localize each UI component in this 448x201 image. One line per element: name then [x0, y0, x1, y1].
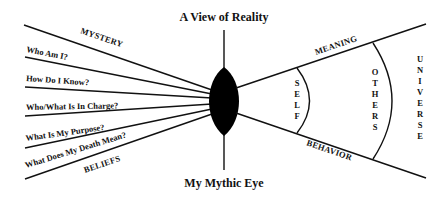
svg-text:S: S: [373, 122, 378, 132]
label-meaning: MEANING: [313, 33, 358, 57]
svg-text:E: E: [372, 100, 378, 110]
svg-text:F: F: [294, 111, 299, 121]
svg-text:V: V: [417, 87, 424, 97]
question-how-do-i-know: How Do I Know?: [26, 73, 90, 87]
ring-label-others: O T H E R S: [372, 67, 379, 132]
svg-text:S: S: [295, 78, 300, 88]
diagram-title: A View of Reality: [180, 10, 269, 24]
label-mystery: MYSTERY: [79, 25, 124, 49]
svg-text:E: E: [417, 98, 423, 108]
question-who-is-in-charge: Who/What Is In Charge?: [26, 100, 119, 112]
svg-text:O: O: [372, 67, 379, 77]
ring-label-self: S E L F: [294, 78, 300, 121]
svg-text:E: E: [294, 89, 300, 99]
ring-label-universe: U N I V E R S E: [417, 54, 424, 141]
question-who-am-i: Who Am I?: [26, 44, 69, 62]
diagram-caption: My Mythic Eye: [184, 176, 264, 190]
svg-text:N: N: [417, 65, 424, 75]
svg-text:H: H: [372, 89, 379, 99]
svg-text:R: R: [417, 109, 424, 119]
svg-text:E: E: [417, 131, 423, 141]
svg-text:R: R: [372, 111, 379, 121]
svg-text:S: S: [418, 120, 423, 130]
eye-icon: [209, 67, 239, 136]
svg-text:U: U: [417, 54, 423, 64]
svg-text:T: T: [372, 78, 378, 88]
svg-text:I: I: [418, 76, 422, 86]
mythic-eye-diagram: A View of Reality MYSTERY Who Am I? How …: [0, 0, 448, 201]
ray-beliefs: [25, 114, 212, 179]
label-behavior: BEHAVIOR: [305, 137, 354, 162]
svg-text:L: L: [294, 100, 300, 110]
ray-meaning: [236, 24, 426, 88]
